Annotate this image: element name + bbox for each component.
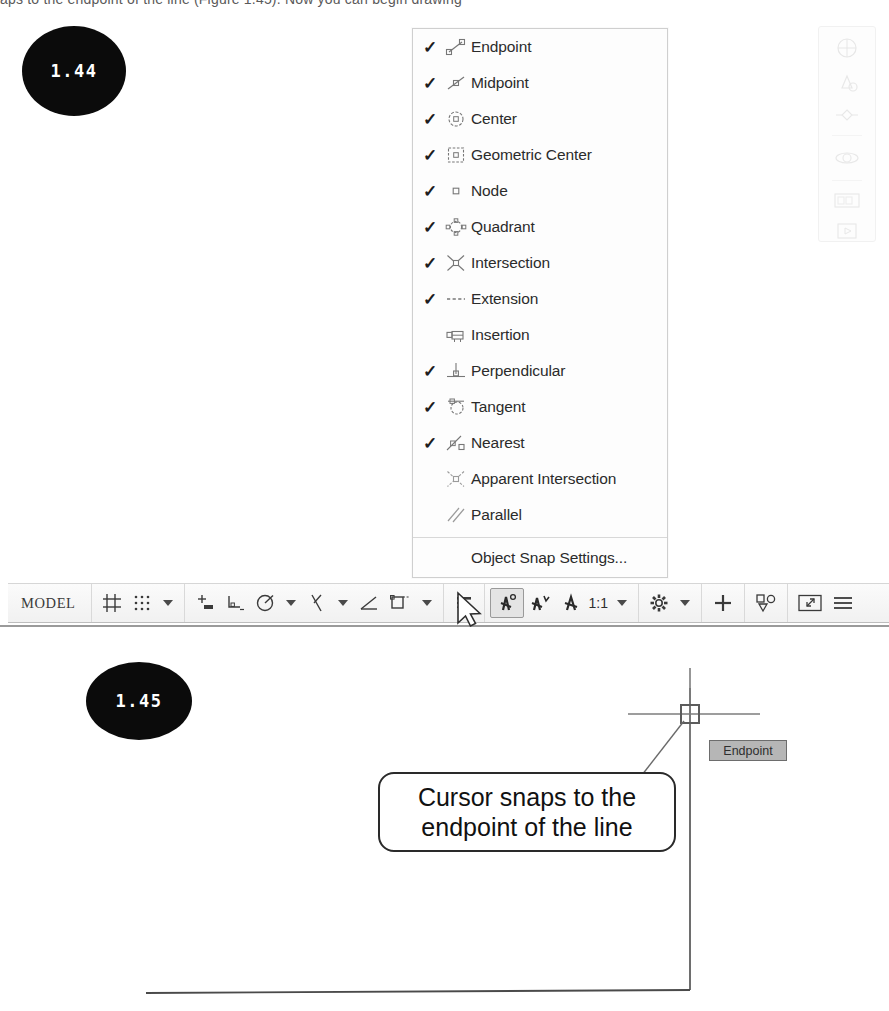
menu-item-tangent[interactable]: ✓ Tangent [413, 389, 667, 425]
2d-object-snap-button[interactable] [384, 588, 416, 618]
endpoint-snap-tooltip: Endpoint [709, 740, 787, 761]
navbar-divider [832, 135, 862, 136]
status-group-annotation: 1:1 [485, 584, 639, 622]
apparent-intersection-snap-icon [441, 468, 471, 490]
pan-hand-icon[interactable] [828, 71, 866, 95]
endpoint-snap-icon [441, 36, 471, 58]
checkmark-icon: ✓ [419, 435, 441, 452]
menu-item-quadrant[interactable]: ✓ Quadrant [413, 209, 667, 245]
menu-item-parallel[interactable]: ✓ Parallel [413, 497, 667, 533]
checkmark-icon: ✓ [419, 147, 441, 164]
annotation-autoscale-button[interactable] [524, 588, 556, 618]
ortho-mode-button[interactable] [220, 588, 250, 618]
snap-mode-dropdown-caret-icon[interactable] [163, 600, 173, 606]
menu-item-label: Quadrant [471, 218, 535, 236]
center-snap-icon [441, 108, 471, 130]
menu-item-extension[interactable]: ✓ Extension [413, 281, 667, 317]
menu-item-label: Geometric Center [471, 146, 592, 164]
menu-item-intersection[interactable]: ✓ Intersection [413, 245, 667, 281]
status-group-drafting [185, 584, 444, 622]
isometric-drafting-dropdown-caret-icon[interactable] [338, 600, 348, 606]
intersection-snap-icon [441, 252, 471, 274]
menu-item-perpendicular[interactable]: ✓ Perpendicular [413, 353, 667, 389]
clean-screen-button[interactable] [793, 588, 827, 618]
menu-item-insertion[interactable]: ✓ Insertion [413, 317, 667, 353]
menu-item-geometric-center[interactable]: ✓ Geometric Center [413, 137, 667, 173]
application-status-bar[interactable]: MODEL [8, 583, 889, 623]
status-group-grid-snap [92, 584, 185, 622]
menu-item-label: Node [471, 182, 508, 200]
checkmark-icon: ✓ [419, 111, 441, 128]
annotation-scale-dropdown-caret-icon[interactable] [617, 600, 627, 606]
status-bar-bottom-rule [0, 625, 889, 627]
status-group-lineweight [444, 584, 485, 622]
menu-item-center[interactable]: ✓ Center [413, 101, 667, 137]
menu-item-label: Center [471, 110, 517, 128]
menu-item-label: Parallel [471, 506, 522, 524]
checkmark-icon: ✓ [419, 75, 441, 92]
menu-item-label: Nearest [471, 434, 525, 452]
polar-tracking-dropdown-caret-icon[interactable] [286, 600, 296, 606]
horizontal-line [146, 990, 690, 993]
object-snap-context-menu[interactable]: ✓ Endpoint ✓ Midpoint ✓ C [412, 28, 668, 578]
units-button[interactable] [750, 588, 782, 618]
showmotion-icon[interactable] [828, 190, 866, 210]
midpoint-snap-icon [441, 72, 471, 94]
node-snap-icon [441, 180, 471, 202]
menu-item-label: Apparent Intersection [471, 470, 616, 488]
menu-item-node[interactable]: ✓ Node [413, 173, 667, 209]
callout-line-1: Cursor snaps to the [418, 782, 636, 812]
status-group-screen [788, 584, 864, 622]
lineweight-button[interactable] [449, 588, 479, 618]
annotation-scale-value[interactable]: 1:1 [586, 595, 611, 611]
2d-object-snap-dropdown-caret-icon[interactable] [422, 600, 432, 606]
isometric-drafting-button[interactable] [302, 588, 332, 618]
figure-number-badge-1-45: 1.45 [86, 662, 192, 740]
customization-button[interactable] [827, 588, 859, 618]
menu-item-label: Insertion [471, 326, 530, 344]
infer-constraints-button[interactable] [190, 588, 220, 618]
polar-tracking-button[interactable] [250, 588, 280, 618]
quadrant-snap-icon [441, 216, 471, 238]
menu-item-label: Extension [471, 290, 538, 308]
menu-item-midpoint[interactable]: ✓ Midpoint [413, 65, 667, 101]
menu-item-nearest[interactable]: ✓ Nearest [413, 425, 667, 461]
zoom-extents-icon[interactable] [828, 105, 866, 125]
play-motion-icon[interactable] [828, 221, 866, 241]
workspace-dropdown-caret-icon[interactable] [680, 600, 690, 606]
checkmark-icon: ✓ [419, 255, 441, 272]
menu-item-endpoint[interactable]: ✓ Endpoint [413, 29, 667, 65]
display-grid-button[interactable] [97, 588, 127, 618]
model-space-button[interactable]: MODEL [13, 595, 86, 612]
menu-item-apparent-intersection[interactable]: ✓ Apparent Intersection [413, 461, 667, 497]
tangent-snap-icon [441, 396, 471, 418]
snap-mode-button[interactable] [127, 588, 157, 618]
geometric-center-snap-icon [441, 144, 471, 166]
checkmark-icon: ✓ [419, 183, 441, 200]
status-group-units [745, 584, 788, 622]
figure-number-badge-1-44: 1.44 [22, 26, 126, 116]
menu-item-object-snap-settings[interactable]: Object Snap Settings... [413, 538, 667, 578]
page-top-text-fragment: aps to the endpoint of the line (Figure … [0, 0, 889, 9]
insertion-snap-icon [441, 324, 471, 346]
parallel-snap-icon [441, 504, 471, 526]
checkmark-icon: ✓ [419, 399, 441, 416]
status-group-model: MODEL [8, 584, 92, 622]
navigation-bar-panel[interactable] [818, 26, 876, 242]
orbit-icon[interactable] [828, 146, 866, 170]
steering-wheel-icon[interactable] [828, 35, 866, 61]
annotation-visibility-button[interactable] [490, 588, 524, 618]
nearest-snap-icon [441, 432, 471, 454]
navbar-divider [832, 180, 862, 181]
menu-item-label: Object Snap Settings... [471, 549, 627, 567]
menu-item-label: Intersection [471, 254, 550, 272]
menu-item-label: Perpendicular [471, 362, 565, 380]
annotation-monitor-button[interactable] [707, 588, 739, 618]
workspace-switching-button[interactable] [644, 588, 674, 618]
menu-item-label: Midpoint [471, 74, 529, 92]
extension-snap-icon [441, 288, 471, 310]
annotation-scale-icon-button[interactable] [556, 588, 586, 618]
object-snap-tracking-button[interactable] [354, 588, 384, 618]
cursor-snap-callout-box: Cursor snaps to the endpoint of the line [378, 772, 676, 852]
callout-line-2: endpoint of the line [421, 812, 632, 842]
